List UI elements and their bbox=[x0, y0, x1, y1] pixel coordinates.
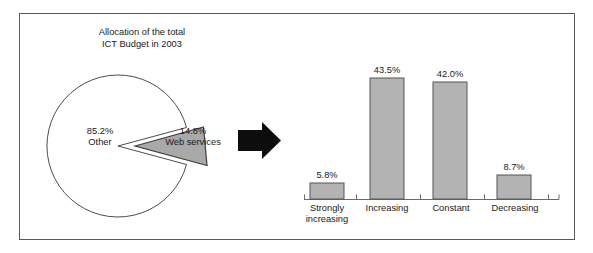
bar-value-increasing: 43.5% bbox=[357, 65, 417, 75]
pie-label-other: 85.2% Other bbox=[72, 126, 128, 149]
bar-category-strongly-increasing-line-1: Strongly bbox=[297, 203, 357, 214]
bar-category-strongly-increasing: Strongly increasing bbox=[297, 203, 357, 225]
pie-title-line-1: Allocation of the total bbox=[42, 27, 242, 39]
pie-chart-title: Allocation of the total ICT Budget in 20… bbox=[42, 27, 242, 50]
bar-category-strongly-increasing-line-2: increasing bbox=[297, 214, 357, 225]
pie-label-other-name: Other bbox=[72, 137, 128, 148]
pie-chart-panel: Allocation of the total ICT Budget in 20… bbox=[0, 0, 296, 253]
bar-category-increasing: Increasing bbox=[355, 203, 419, 214]
pie-label-web-name: Web services bbox=[152, 137, 234, 148]
pie-label-web-value: 14.8% bbox=[152, 126, 234, 137]
bar-value-decreasing: 8.7% bbox=[484, 162, 544, 172]
bar-category-constant: Constant bbox=[419, 203, 483, 214]
bar-value-strongly-increasing: 5.8% bbox=[297, 170, 357, 180]
pie-title-line-2: ICT Budget in 2003 bbox=[42, 39, 242, 51]
bar-category-decreasing: Decreasing bbox=[482, 203, 548, 214]
pie-label-other-value: 85.2% bbox=[72, 126, 128, 137]
bar-value-constant: 42.0% bbox=[420, 69, 480, 79]
pie-label-web-services: 14.8% Web services bbox=[152, 126, 234, 149]
figure-container: Allocation of the total ICT Budget in 20… bbox=[0, 0, 593, 253]
